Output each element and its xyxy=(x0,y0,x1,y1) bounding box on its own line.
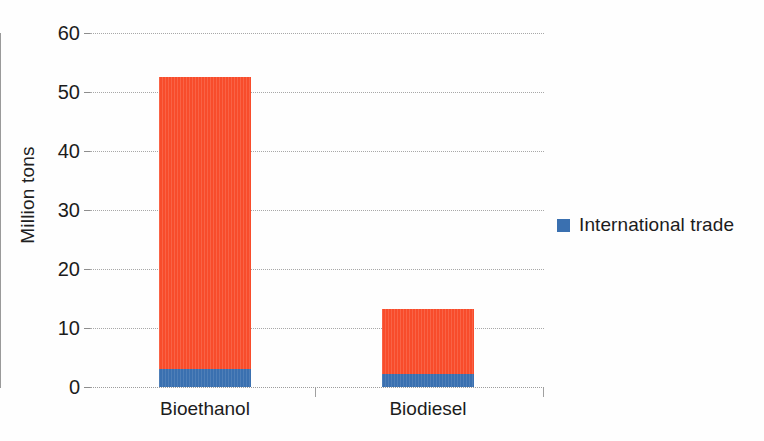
y-axis-tick-label: 40 xyxy=(28,141,80,161)
y-axis-tick-label: 30 xyxy=(28,200,80,220)
x-axis-label-bioethanol: Bioethanol xyxy=(115,398,295,420)
bar-segment-biodiesel-international-trade xyxy=(382,374,474,387)
y-axis-tick-label: 0 xyxy=(28,377,80,397)
y-axis-tick-label: 60 xyxy=(28,23,80,43)
y-axis-tick-label: 10 xyxy=(28,318,80,338)
legend: International trade xyxy=(557,214,734,236)
y-axis-tick-label: 20 xyxy=(28,259,80,279)
legend-label-international-trade: International trade xyxy=(579,214,734,236)
plot-area xyxy=(90,33,544,387)
stacked-bar-chart: Million tons 0102030405060 BioethanolBio… xyxy=(0,0,764,441)
y-axis-tick xyxy=(84,387,90,388)
bar-segment-bioethanol-international-trade xyxy=(159,369,251,387)
x-axis-label-biodiesel: Biodiesel xyxy=(338,398,518,420)
y-axis-tick-label: 50 xyxy=(28,82,80,102)
bar-segment-biodiesel-other xyxy=(382,309,474,374)
bar-biodiesel xyxy=(382,33,474,387)
bar-segment-bioethanol-other xyxy=(159,77,251,369)
legend-swatch-international-trade xyxy=(557,219,570,232)
y-axis-line xyxy=(0,33,1,388)
x-axis-category-separator xyxy=(315,388,316,397)
x-axis-category-separator xyxy=(543,388,544,397)
bar-bioethanol xyxy=(159,33,251,387)
gridline xyxy=(90,387,544,388)
